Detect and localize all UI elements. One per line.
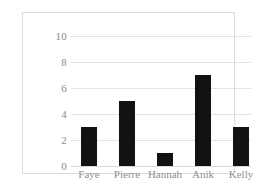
gridline-4 [71, 114, 251, 115]
x-axis: Faye Pierre Hannah Anik Kelly [71, 168, 251, 180]
x-tick-label-kelly: Kelly [218, 168, 252, 180]
gridline-2 [71, 140, 251, 141]
gridline-6 [71, 88, 251, 89]
y-tick-label: 6 [43, 83, 67, 94]
y-tick-label: 2 [43, 135, 67, 146]
gridline-0 [71, 166, 251, 167]
y-axis: 10 8 6 4 2 0 [41, 36, 67, 166]
chart-frame: 10 8 6 4 2 0 Faye Pierre Hannah Anik Kel [22, 12, 235, 174]
gridline-8 [71, 62, 251, 63]
y-tick-label: 10 [43, 31, 67, 42]
bar-faye [81, 127, 97, 166]
y-tick-label: 4 [43, 109, 67, 120]
gridline-10 [71, 36, 251, 37]
bar-anik [195, 75, 211, 166]
y-tick-label: 8 [43, 57, 67, 68]
bar-pierre [119, 101, 135, 166]
bar-hannah [157, 153, 173, 166]
y-tick-label: 0 [43, 161, 67, 172]
bar-kelly [233, 127, 249, 166]
plot-area [71, 36, 251, 166]
bar-chart: 10 8 6 4 2 0 Faye Pierre Hannah Anik Kel [0, 0, 252, 180]
